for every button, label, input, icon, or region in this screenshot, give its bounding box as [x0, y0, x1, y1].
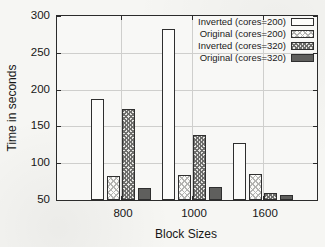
y-tick-label: 300	[20, 10, 50, 21]
bar-original-cores-200--1600	[249, 174, 262, 200]
y-tick-mark	[57, 163, 61, 164]
x-tick-mark	[121, 16, 122, 20]
y-tick-mark	[313, 126, 317, 127]
bar-original-cores-320--1600	[280, 195, 293, 200]
legend-swatch-white-outline	[291, 18, 314, 26]
legend-label: Inverted (cores=320)	[198, 41, 286, 51]
y-tick-mark	[57, 126, 61, 127]
y-tick-label: 100	[20, 157, 50, 168]
y-tick-label: 50	[20, 194, 50, 205]
bar-original-cores-200--800	[107, 176, 120, 200]
x-tick-label: 1000	[172, 207, 216, 219]
legend-label: Original (cores=320)	[200, 53, 286, 63]
bar-original-cores-320--1000	[209, 187, 222, 200]
legend-entry: Original (cores=200)	[198, 28, 314, 40]
y-tick-label: 200	[20, 84, 50, 95]
legend-label: Original (cores=200)	[200, 29, 286, 39]
legend-entry: Original (cores=320)	[198, 52, 314, 64]
y-tick-mark	[313, 200, 317, 201]
bar-inverted-cores-200--800	[91, 99, 104, 200]
bar-inverted-cores-320--1000	[193, 135, 206, 201]
y-tick-label: 150	[20, 120, 50, 131]
y-tick-label: 250	[20, 47, 50, 58]
x-tick-mark	[192, 16, 193, 20]
x-axis-label: Block Sizes	[56, 227, 316, 241]
bar-inverted-cores-320--800	[122, 109, 135, 200]
legend-label: Inverted (cores=200)	[198, 17, 286, 27]
bar-inverted-cores-200--1000	[162, 29, 175, 200]
y-axis-label: Time in seconds	[5, 48, 19, 168]
bar-inverted-cores-320--1600	[264, 193, 277, 200]
legend-entry: Inverted (cores=200)	[198, 16, 314, 28]
legend-entry: Inverted (cores=320)	[198, 40, 314, 52]
chart-figure: Time in seconds Block Sizes Inverted (co…	[0, 0, 325, 247]
y-tick-mark	[57, 200, 61, 201]
legend: Inverted (cores=200)Original (cores=200)…	[198, 16, 314, 64]
y-tick-mark	[313, 90, 317, 91]
legend-swatch-dense-crosshatch	[291, 42, 314, 50]
y-tick-mark	[57, 53, 61, 54]
y-tick-mark	[57, 16, 61, 17]
bar-original-cores-320--800	[138, 188, 151, 201]
legend-swatch-solid-dark	[291, 54, 314, 62]
bar-original-cores-200--1000	[178, 175, 191, 200]
y-tick-mark	[57, 90, 61, 91]
legend-swatch-light-crosshatch	[291, 30, 314, 38]
bar-inverted-cores-200--1600	[233, 143, 246, 200]
y-tick-mark	[313, 163, 317, 164]
x-tick-label: 800	[101, 207, 145, 219]
x-tick-label: 1600	[243, 207, 287, 219]
h-gridline	[57, 90, 317, 91]
